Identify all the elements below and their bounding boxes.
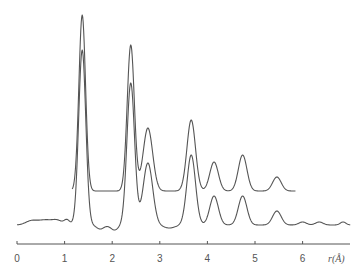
x-tick-label: 5 [252, 253, 258, 264]
radial-distribution-chart: 0123456 r(Å) [0, 0, 364, 272]
x-tick-label: 4 [205, 253, 211, 264]
x-axis-label: r(Å) [328, 253, 345, 265]
x-tick-label: 6 [300, 253, 306, 264]
upper-curve [72, 15, 295, 191]
x-tick-label: 3 [157, 253, 163, 264]
x-tick-label: 0 [14, 253, 20, 264]
x-tick-label: 1 [62, 253, 68, 264]
lower-curve [17, 50, 350, 230]
curves-group [17, 15, 350, 230]
x-tick-label: 2 [109, 253, 115, 264]
x-axis: 0123456 r(Å) [14, 241, 350, 265]
